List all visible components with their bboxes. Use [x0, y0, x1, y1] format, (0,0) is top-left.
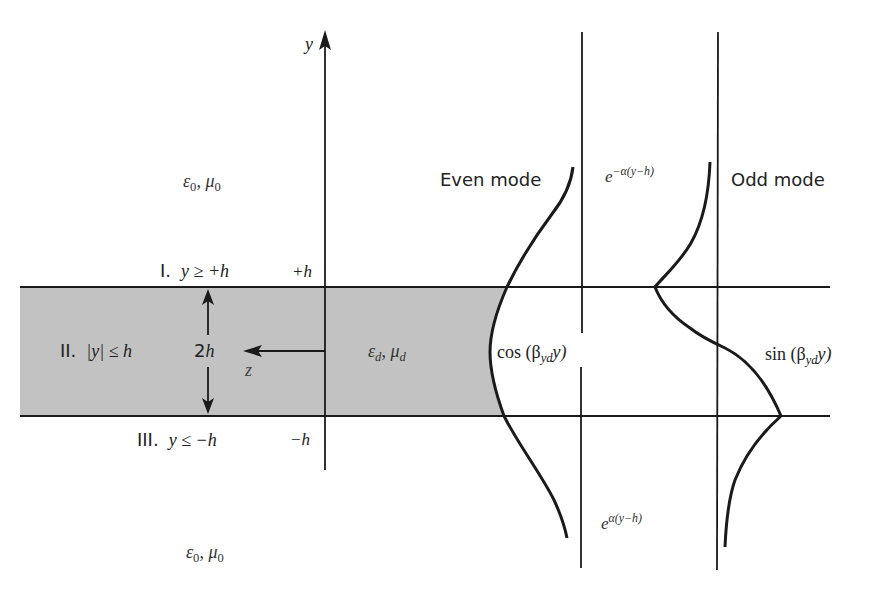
cos-fn: cos (β — [497, 342, 541, 362]
minus-h-label: −h — [290, 431, 310, 448]
even-lower-decay-base: e — [601, 514, 609, 533]
region-3-numeral: III. — [137, 429, 159, 450]
even-mode-lower-decay: eα(y−h) — [601, 515, 642, 532]
cos-tail: y) — [553, 342, 567, 362]
region-2-label: II.|y| ≤ h — [60, 342, 132, 360]
even-upper-decay-base: e — [605, 167, 613, 186]
region-2-numeral: II. — [60, 340, 76, 361]
region-2-mu-sub: d — [399, 350, 405, 364]
odd-mode-title: Odd mode — [731, 171, 825, 189]
sin-fn: sin (β — [765, 344, 806, 364]
y-axis-label: y — [305, 35, 313, 53]
region-3-label: III.y ≤ −h — [137, 431, 217, 449]
region-1-mu-sub: 0 — [214, 180, 220, 194]
region-1-condition: y ≥ +h — [181, 261, 229, 281]
even-lower-decay-exp: α(y−h) — [609, 511, 642, 525]
odd-mode-axis — [717, 32, 718, 570]
region-2-material: εd, μd — [368, 342, 406, 360]
sin-sub: yd — [806, 353, 818, 367]
sin-tail: y) — [818, 344, 832, 364]
region-1-numeral: I. — [160, 260, 171, 281]
region-1-label: I.y ≥ +h — [160, 262, 229, 280]
z-axis-label: z — [245, 361, 252, 379]
even-mode-title: Even mode — [440, 171, 541, 189]
region-3-mu-sub: 0 — [217, 551, 223, 565]
region-3-material: ε0, μ0 — [186, 543, 224, 561]
cos-sub: yd — [541, 351, 553, 365]
waveguide-diagram — [0, 0, 869, 592]
even-mode-inside-fn: cos (βydy) — [497, 343, 567, 361]
region-1-material: ε0, μ0 — [183, 172, 221, 190]
region-3-condition: y ≤ −h — [169, 430, 217, 450]
thickness-label: 2h — [194, 342, 214, 360]
even-upper-decay-exp: −α(y−h) — [613, 164, 654, 178]
plus-h-label: +h — [292, 263, 312, 280]
region-2-condition: |y| ≤ h — [86, 341, 132, 361]
even-mode-upper-decay: e−α(y−h) — [605, 168, 654, 185]
odd-mode-inside-fn: sin (βydy) — [765, 345, 832, 363]
